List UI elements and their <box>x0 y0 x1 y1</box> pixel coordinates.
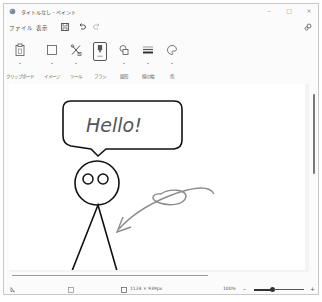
vertical-scrollbar[interactable] <box>312 84 316 274</box>
gear-icon[interactable] <box>303 22 313 32</box>
chevron-down-icon <box>75 63 77 64</box>
selection-size-icon <box>68 287 74 293</box>
brush-icon <box>93 42 107 61</box>
zoom-track-empty <box>274 289 304 290</box>
speech-bubble-text: Hello! <box>86 114 142 136</box>
stick-figure-body <box>72 205 117 270</box>
zoom-in-button[interactable]: + <box>310 285 315 292</box>
title-bar: タイトルなし - ペイント – □ × <box>4 4 318 20</box>
save-icon[interactable] <box>60 22 70 32</box>
chevron-down-icon <box>19 63 21 64</box>
selection-icon <box>46 43 58 57</box>
zoom-track-filled <box>254 289 271 291</box>
window-title: タイトルなし - ペイント <box>21 8 76 15</box>
paint-window: タイトルなし - ペイント – □ × ファイル 表示 <box>3 3 319 295</box>
chevron-down-icon <box>171 63 173 64</box>
clipboard-icon <box>14 43 26 57</box>
horizontal-scrollbar-thumb[interactable] <box>12 275 208 276</box>
stick-figure-head <box>75 161 119 205</box>
menu-file[interactable]: ファイル <box>9 24 33 32</box>
paint-app-icon <box>9 8 16 15</box>
shapes-icon <box>118 43 130 57</box>
canvas-size-icon <box>121 287 127 293</box>
redo-icon[interactable] <box>92 22 102 32</box>
canvas-size: 1124 × 939px <box>130 286 162 291</box>
chevron-down-icon <box>51 63 53 64</box>
maximize-button[interactable]: □ <box>284 6 294 16</box>
menu-bar: ファイル 表示 <box>4 21 318 35</box>
canvas-viewport: Hello! <box>9 84 309 272</box>
chevron-down-icon <box>123 63 125 64</box>
zoom-slider[interactable] <box>254 289 306 291</box>
zoom-out-button[interactable]: – <box>243 285 246 292</box>
horizontal-scrollbar[interactable] <box>12 275 208 277</box>
drawing-canvas[interactable]: Hello! <box>9 84 305 270</box>
chevron-down-icon <box>147 63 149 64</box>
pointer-position-icon <box>10 287 16 293</box>
ribbon-group-colors[interactable]: 色 <box>157 39 187 81</box>
line-width-icon <box>142 43 154 57</box>
ribbon-toolbar: クリップボード イメージ ツール ブラシ <box>4 39 318 81</box>
menu-view[interactable]: 表示 <box>36 24 48 32</box>
minimize-button[interactable]: – <box>264 6 274 16</box>
pencil-arrow-stroke <box>119 188 214 229</box>
palette-icon <box>166 43 178 57</box>
undo-icon[interactable] <box>77 22 87 32</box>
close-button[interactable]: × <box>304 6 314 16</box>
drawing: Hello! <box>9 84 305 270</box>
ribbon-label-colors: 色 <box>151 73 193 79</box>
zoom-level[interactable]: 100% <box>223 286 236 291</box>
tools-icon <box>70 43 82 57</box>
status-bar: 1124 × 939px 100% – + <box>4 284 318 296</box>
vertical-scrollbar-thumb[interactable] <box>313 94 315 174</box>
